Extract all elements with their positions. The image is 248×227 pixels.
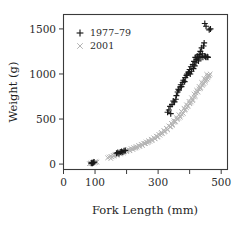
y-axis-title: Weight (g) [6,62,20,123]
x-axis-title: Fork Length (mm) [92,203,198,217]
x-tick-label: 0 [60,176,67,188]
legend-label: 1977–79 [90,27,131,38]
series-cross [87,72,212,166]
y-tick-label: 500 [36,113,56,125]
x-tick-label: 300 [148,176,168,188]
marker-plus [207,26,213,32]
x-axis-tick-labels: 0100300500 [60,176,231,188]
plot-frame [64,15,228,170]
x-tick-label: 100 [85,176,105,188]
marker-plus [202,21,208,27]
y-tick-label: 1500 [29,23,56,35]
y-tick-label: 0 [49,158,56,170]
marker-plus [206,27,212,33]
marker-plus [173,93,179,99]
y-tick-label: 1000 [29,68,56,80]
legend-label: 2001 [90,40,114,51]
marker-plus [77,30,84,37]
legend: 1977–792001 [77,27,131,51]
plot-canvas: 0100300500 050010001500 Fork Length (mm)… [0,0,248,227]
y-axis-ticks [59,29,64,164]
x-tick-label: 500 [211,176,231,188]
x-axis-ticks [64,170,222,175]
y-axis-tick-labels: 050010001500 [29,23,56,170]
scatter-chart-figure: 0100300500 050010001500 Fork Length (mm)… [0,0,248,227]
marker-plus [203,23,209,29]
marker-cross [77,43,83,49]
